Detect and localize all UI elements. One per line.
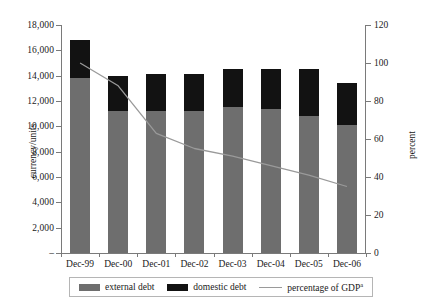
x-tick [99,253,100,257]
y-tick-label-right: 20 [374,210,384,220]
x-tick-label: Dec-99 [66,259,94,269]
x-tick-label: Dec-00 [104,259,132,269]
x-tick-label: Dec-02 [180,259,208,269]
x-tick [61,253,62,257]
chart-container: currency/units percent –2,0004,0006,0008… [0,0,429,302]
legend-swatch-external-debt [79,284,100,291]
y-tick-label-right: 0 [374,248,379,258]
y-tick-label-right: 100 [374,58,388,68]
x-tick-label: Dec-04 [257,259,285,269]
y-tick-label-right: 120 [374,20,388,30]
legend-label-percentage-of-gdp: percentage of GDPa [287,281,363,293]
y-tick-label-right: 80 [374,96,384,106]
y-tick-label-left: 4,000 [32,197,54,207]
legend-footnote-marker: a [360,281,363,288]
y-tick-right [366,139,371,140]
x-tick-label: Dec-03 [219,259,247,269]
y-axis-right-title: percent [407,131,417,159]
y-tick-right [366,177,371,178]
x-tick [366,253,367,257]
x-tick [175,253,176,257]
y-tick-label-left: 14,000 [27,71,54,81]
gdp-percentage-line [61,25,366,253]
y-tick-label-left: 2,000 [32,223,54,233]
legend-item-percentage-of-gdp: percentage of GDPa [259,281,363,293]
y-tick-label-left: 18,000 [27,20,54,30]
y-tick-right [366,63,371,64]
x-tick [137,253,138,257]
y-tick-label-left: 16,000 [27,45,54,55]
x-tick [328,253,329,257]
y-tick-label-left: 6,000 [32,172,54,182]
x-tick [290,253,291,257]
legend-line-percentage-of-gdp [259,287,282,288]
y-tick-label-left: 10,000 [27,121,54,131]
plot-area: –2,0004,0006,0008,00010,00012,00014,0001… [61,25,366,253]
y-tick-right [366,215,371,216]
y-tick-label-left: 8,000 [32,147,54,157]
x-tick-label: Dec-01 [142,259,170,269]
y-tick-label-left: 12,000 [27,96,54,106]
x-tick-label: Dec-05 [295,259,323,269]
legend-label-domestic-debt: domestic debt [193,282,246,292]
chart-legend: external debt domestic debt percentage o… [69,277,373,297]
legend-label-external-debt: external debt [105,282,154,292]
x-tick [214,253,215,257]
y-tick-label-left: – [49,248,54,258]
y-tick-right [366,25,371,26]
legend-item-external-debt: external debt [79,282,154,292]
x-tick [252,253,253,257]
y-tick-label-right: 40 [374,172,384,182]
legend-swatch-domestic-debt [167,284,188,291]
legend-item-domestic-debt: domestic debt [167,282,246,292]
y-tick-right [366,101,371,102]
y-tick-label-right: 60 [374,134,384,144]
x-tick-label: Dec-06 [333,259,361,269]
